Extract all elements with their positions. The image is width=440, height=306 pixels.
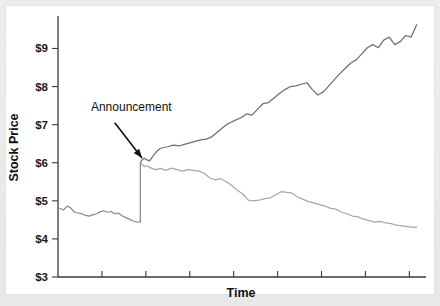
- y-tick-label-5: $8: [35, 81, 48, 93]
- y-axis-tick-labels: $3$4$5$6$7$8$9: [35, 42, 48, 283]
- y-tick-label-2: $5: [35, 195, 48, 207]
- series-pre-announcement: [60, 206, 141, 222]
- series-post-announcement-lower: [140, 163, 416, 228]
- y-tick-label-4: $7: [35, 119, 48, 131]
- y-tick-label-0: $3: [35, 271, 48, 283]
- series-lines: [60, 25, 417, 228]
- stock-price-chart-figure: $3$4$5$6$7$8$9 Announcement Time Stock P…: [0, 0, 440, 306]
- y-tick-label-6: $9: [35, 42, 48, 54]
- y-tick-label-1: $4: [35, 233, 48, 245]
- series-post-announcement-upper: [140, 25, 416, 163]
- chart-screenshot: $3$4$5$6$7$8$9 Announcement Time Stock P…: [0, 0, 440, 306]
- x-axis-title: Time: [227, 286, 256, 300]
- y-axis-title: Stock Price: [7, 113, 21, 181]
- x-axis-tick-marks: [102, 271, 409, 277]
- y-axis-tick-marks: [52, 48, 58, 277]
- y-tick-label-3: $6: [35, 157, 48, 169]
- chart-svg: $3$4$5$6$7$8$9 Announcement Time Stock P…: [0, 0, 440, 306]
- announcement-label: Announcement: [91, 100, 172, 114]
